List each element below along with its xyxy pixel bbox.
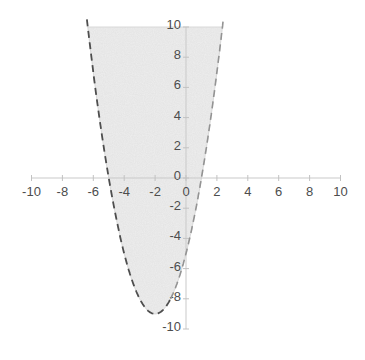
x-tick-label-2: 2 (213, 184, 220, 199)
x-tick-label--4: -4 (118, 184, 130, 199)
y-tick-label--4: -4 (169, 228, 181, 243)
axes-layer (32, 27, 341, 329)
x-tick-label-10: 10 (333, 184, 347, 199)
x-tick-label--6: -6 (88, 184, 100, 199)
y-tick-label-2: 2 (174, 138, 181, 153)
y-tick-label-8: 8 (174, 47, 181, 62)
y-tick-label-4: 4 (174, 108, 181, 123)
y-tick-label--2: -2 (169, 198, 181, 213)
x-tick-label-8: 8 (306, 184, 313, 199)
y-tick-label--10: -10 (162, 319, 181, 334)
y-tick-label-10: 10 (167, 17, 181, 32)
y-tick-label--6: -6 (169, 259, 181, 274)
figure-quadratic-inequality: -10-8-6-4-202468101086420-2-4-6-8-10 (0, 0, 365, 360)
x-tick-label-6: 6 (275, 184, 282, 199)
y-tick-label-6: 6 (174, 77, 181, 92)
x-tick-label-0: 0 (182, 184, 189, 199)
x-tick-label--10: -10 (22, 184, 41, 199)
x-tick-label-4: 4 (244, 184, 251, 199)
x-tick-label--8: -8 (57, 184, 69, 199)
quadratic-inequality-plot: -10-8-6-4-202468101086420-2-4-6-8-10 (0, 0, 365, 360)
x-tick-label--2: -2 (149, 184, 161, 199)
y-tick-label-0: 0 (174, 168, 181, 183)
